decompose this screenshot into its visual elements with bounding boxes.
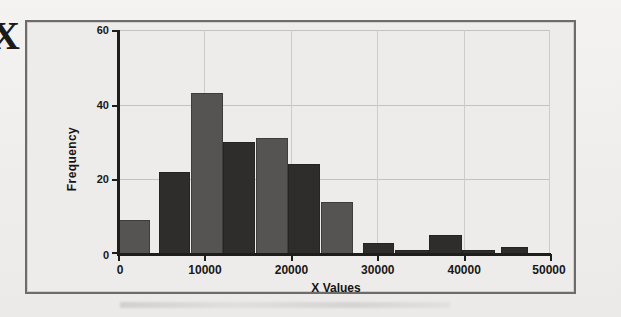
gridline-x-30000 [377, 30, 378, 254]
y-tick-label-20: 20 [97, 173, 109, 185]
gridline-40 [118, 105, 550, 106]
x-tick-label-30000: 30000 [361, 263, 394, 277]
bar-6 [321, 202, 353, 254]
bar-9 [429, 235, 461, 254]
y-tick-60 [112, 30, 118, 32]
margin-glyph-x: X [0, 16, 18, 56]
x-tick-50000 [550, 254, 552, 261]
plot-area: 60 40 20 0 0 10000 20000 30000 40000 500… [118, 30, 550, 254]
gridline-60 [118, 30, 550, 31]
scan-bleed-artifact [120, 302, 450, 308]
y-tick-20 [112, 179, 118, 181]
y-tick-label-0: 0 [103, 249, 109, 261]
x-tick-label-40000: 40000 [448, 263, 481, 277]
bar-2 [191, 93, 223, 254]
x-tick-0 [118, 254, 120, 261]
x-tick-10000 [204, 254, 206, 261]
gridline-x-50000 [549, 30, 550, 254]
y-tick-label-40: 40 [97, 99, 109, 111]
y-axis-line [117, 30, 120, 254]
x-axis-line [117, 253, 551, 256]
bar-3 [223, 142, 255, 254]
y-axis-title: Frequency [65, 127, 79, 191]
gridline-x-40000 [464, 30, 465, 254]
x-tick-label-20000: 20000 [275, 263, 308, 277]
y-tick-label-60: 60 [97, 24, 109, 36]
bar-0 [118, 220, 150, 254]
x-tick-40000 [464, 254, 466, 261]
y-tick-40 [112, 105, 118, 107]
figure-inner-panel: Frequency X Values [30, 25, 571, 289]
x-tick-label-10000: 10000 [188, 263, 221, 277]
bar-4 [256, 138, 288, 254]
bar-1 [159, 172, 191, 254]
x-tick-20000 [291, 254, 293, 261]
x-tick-label-50000: 50000 [532, 263, 565, 277]
x-tick-30000 [377, 254, 379, 261]
x-axis-title: X Values [311, 281, 360, 295]
bar-5 [288, 164, 320, 254]
histogram-figure: Frequency X Values [25, 20, 576, 294]
x-tick-label-0: 0 [117, 263, 124, 277]
